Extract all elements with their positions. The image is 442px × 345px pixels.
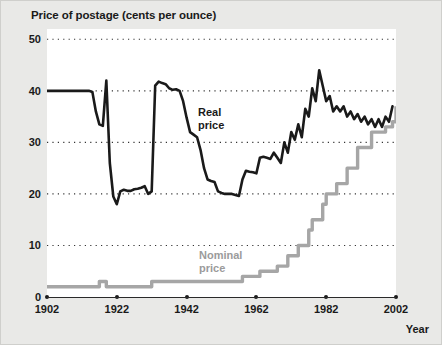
- y-axis-tick-label: 30: [15, 136, 41, 148]
- x-axis-line: [47, 297, 396, 298]
- real-price-annotation-line2: price: [198, 119, 224, 132]
- y-axis-tick-label: 40: [15, 85, 41, 97]
- x-axis-tick-label: 2002: [373, 303, 419, 315]
- gridlines: [47, 39, 396, 245]
- y-axis-tick-label: 20: [15, 188, 41, 200]
- x-axis-tick-label: 1962: [233, 303, 279, 315]
- nominal-price-annotation: Nominal price: [199, 249, 242, 275]
- real-price-annotation: Real price: [198, 106, 224, 132]
- real-price-annotation-line1: Real: [198, 106, 224, 119]
- x-axis-tick-label: 1982: [303, 303, 349, 315]
- y-axis-tick-label: 50: [15, 33, 41, 45]
- x-axis-tick-label: 1942: [164, 303, 210, 315]
- x-axis-title: Year: [406, 323, 429, 335]
- page-title: Price of postage (cents per ounce): [31, 9, 216, 21]
- y-axis-tick-label: 0: [15, 291, 41, 303]
- y-axis-tick-label: 10: [15, 239, 41, 251]
- x-axis-tick-label: 1902: [24, 303, 70, 315]
- chart-figure: Price of postage (cents per ounce) 50403…: [0, 0, 442, 345]
- nominal-price-annotation-line1: Nominal: [199, 249, 242, 262]
- nominal-price-annotation-line2: price: [199, 262, 242, 275]
- x-axis-tick-label: 1922: [94, 303, 140, 315]
